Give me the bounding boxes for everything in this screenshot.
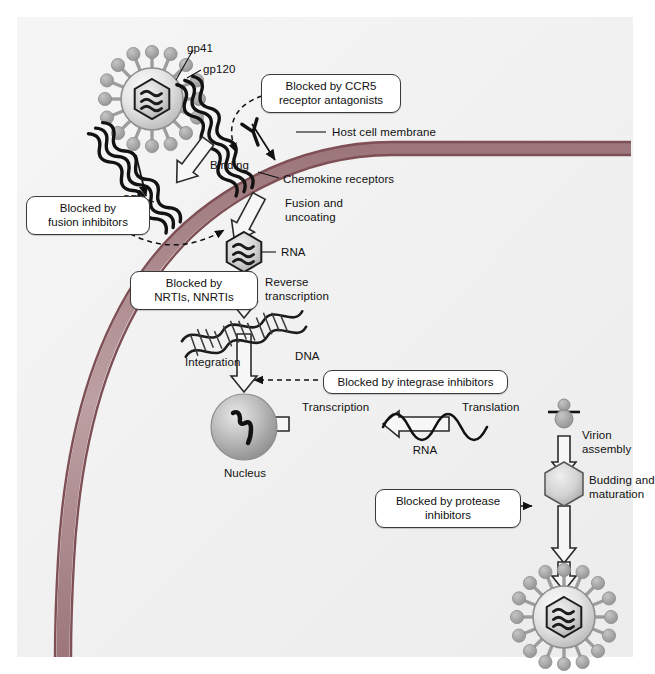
callout-integrase-inhibitors[interactable]: Blocked by integrase inhibitors: [323, 370, 508, 394]
label-reverse-transcription: Reverse transcription: [265, 275, 329, 303]
label-gp120: gp120: [203, 62, 235, 76]
label-nucleus: Nucleus: [212, 466, 278, 480]
callout-protease-inhibitors[interactable]: Blocked by protease inhibitors: [375, 489, 521, 528]
hiv-virion-icon: [510, 563, 617, 670]
viral-capsid-hexagon-icon: [227, 232, 262, 272]
cd4-receptor-icon: [242, 119, 266, 148]
label-integration: Integration: [185, 355, 240, 369]
ribosome-icon: [548, 399, 580, 428]
label-transcription: Transcription: [302, 400, 369, 414]
label-chemokine-receptors: Chemokine receptors: [283, 172, 394, 186]
label-rna-transcript: RNA: [403, 443, 447, 457]
label-virion-assembly: Virion assembly: [582, 428, 631, 456]
callout-fusion-inhibitors[interactable]: Blocked by fusion inhibitors: [26, 196, 150, 235]
label-budding-and-maturation: Budding and maturation: [589, 473, 655, 501]
label-gp41: gp41: [187, 41, 213, 55]
callout-ccr5-antagonists[interactable]: Blocked by CCR5 receptor antagonists: [261, 74, 401, 113]
label-fusion-and-uncoating: Fusion and uncoating: [285, 196, 343, 224]
label-binding: Binding: [210, 158, 249, 172]
label-rna-capsid: RNA: [281, 245, 306, 259]
nucleus-sphere-icon: [211, 394, 277, 460]
immature-virion-hexagon-icon: [545, 462, 583, 506]
label-host-cell-membrane: Host cell membrane: [332, 125, 436, 139]
callout-nrti-nnrti[interactable]: Blocked by NRTIs, NNRTIs: [130, 271, 258, 310]
label-dna: DNA: [295, 349, 320, 363]
budding-arrow: [552, 506, 576, 563]
label-translation: Translation: [462, 400, 520, 414]
